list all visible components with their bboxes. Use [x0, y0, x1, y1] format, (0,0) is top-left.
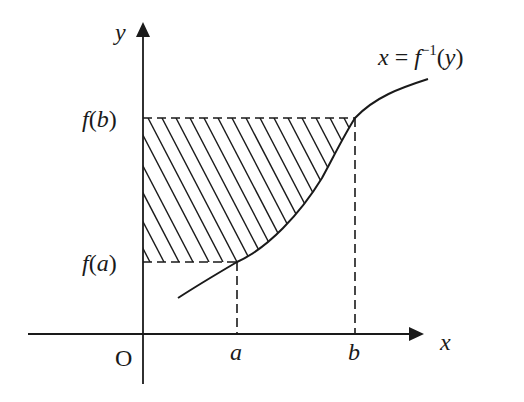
- inverse-function-area-diagram: y x O a b f(b) f(a) x = f−1(y): [0, 0, 524, 402]
- x-axis-arrow-icon: [409, 327, 424, 341]
- y-axis-arrow-icon: [136, 22, 150, 37]
- tick-label-fa: f(a): [82, 250, 117, 276]
- inverse-function-curve: [178, 79, 428, 298]
- tick-label-b: b: [348, 339, 360, 365]
- origin-label: O: [115, 345, 132, 371]
- tick-label-a: a: [230, 339, 242, 365]
- hatched-region: [60, 118, 419, 262]
- tick-label-fb: f(b): [82, 106, 117, 132]
- x-axis-label: x: [439, 329, 451, 355]
- y-axis-label: y: [113, 19, 126, 45]
- curve-label: x = f−1(y): [377, 42, 464, 70]
